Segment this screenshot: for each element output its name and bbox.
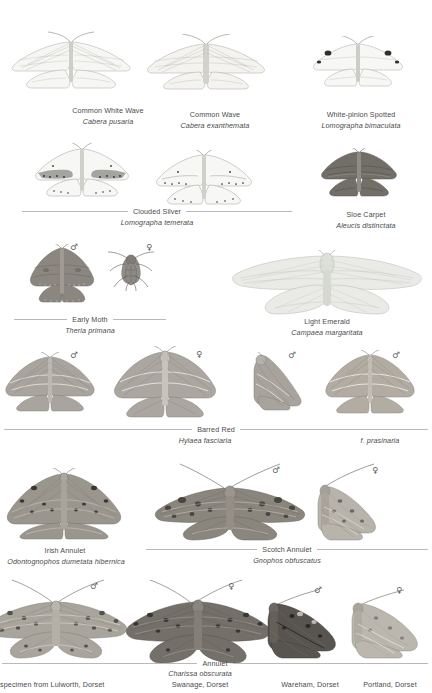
moth-illustration-scotch-annulet-female (310, 483, 382, 543)
caption-common-name-white-pinion-spotted: White-pinion Spotted (290, 110, 432, 119)
rule-line-right (317, 549, 428, 550)
moth-illustration-barred-red-male-2 (243, 352, 305, 414)
moth-illustration-common-white-wave (8, 30, 134, 92)
moth-illustration-annulet-male-1 (0, 598, 130, 660)
caption-common-name-sloe-carpet: Sloe Carpet (300, 210, 432, 219)
rule-line-left (14, 319, 67, 320)
sex-symbol-early-moth-male: ♂ (70, 243, 78, 251)
sex-symbol-early-moth-female: ♀ (146, 243, 152, 251)
moth-illustration-annulet-male-2 (262, 600, 344, 660)
caption-common-name-light-emerald: Light Emerald (238, 317, 416, 326)
moth-illustration-annulet-female-1 (122, 598, 274, 664)
moth-illustration-sloe-carpet (318, 148, 400, 200)
locality-label-lulworth: specimen from Lulworth, Dorset (0, 680, 104, 689)
sex-symbol-annulet-male-2: ♂ (314, 586, 322, 594)
caption-common-name-irish-annulet: Irish Annulet (0, 546, 130, 555)
rule-line-right (233, 663, 428, 664)
moth-illustration-common-wave (143, 34, 269, 92)
caption-scientific-name-sloe-carpet: Aleucis distinctata (300, 221, 432, 230)
moth-illustration-annulet-female-2 (346, 600, 426, 660)
rule-line-right (113, 319, 166, 320)
rule-line-right (186, 211, 292, 212)
group-title-annulet: Annulet (202, 659, 227, 668)
group-rule-scotch-annulet: Scotch Annulet (146, 545, 428, 554)
group-rule-early-moth: Early Moth (14, 315, 166, 324)
caption-scientific-name-annulet: Charissa obscurata (130, 669, 270, 678)
group-rule-barred-red: Barred Red (4, 425, 428, 434)
sex-symbol-annulet-female-1: ♀ (228, 582, 234, 590)
moth-illustration-barred-red-male-1 (2, 352, 98, 412)
rule-line-left (22, 211, 128, 212)
group-title-clouded-silver: Clouded Silver (133, 207, 181, 216)
rule-line-left (146, 549, 257, 550)
caption-scientific-name-early-moth: Theria primana (14, 326, 166, 335)
moth-plate: Common White Wave Cabera pusaria (0, 0, 432, 693)
moth-illustration-white-pinion-spotted (310, 36, 406, 90)
moth-illustration-light-emerald (228, 250, 426, 320)
caption-scientific-name-light-emerald: Campaea margaritata (238, 328, 416, 337)
rule-line-right (240, 429, 428, 430)
group-title-early-moth: Early Moth (72, 315, 107, 324)
caption-scientific-name-irish-annulet: Odontognophos dumetata hibernica (0, 557, 141, 566)
moth-illustration-scotch-annulet-male (152, 484, 308, 542)
locality-label-portland: Portland, Dorset (348, 680, 432, 689)
sex-symbol-barred-red-female: ♀ (196, 350, 202, 358)
moth-illustration-barred-red-female (110, 346, 220, 418)
sex-symbol-barred-red-male-2: ♂ (288, 351, 296, 359)
moth-illustration-irish-annulet (4, 468, 124, 540)
group-title-barred-red: Barred Red (197, 425, 235, 434)
sex-symbol-barred-red-form-male: ♂ (392, 351, 400, 359)
sex-symbol-barred-red-male-1: ♂ (70, 351, 78, 359)
moth-illustration-early-moth-female (105, 248, 157, 292)
moth-illustration-early-moth-male (26, 244, 98, 306)
group-title-scotch-annulet: Scotch Annulet (262, 545, 311, 554)
caption-scientific-name-scotch-annulet: Gnophos obfuscatus (146, 556, 428, 565)
moth-illustration-clouded-silver-right (150, 150, 258, 206)
sex-symbol-scotch-annulet-female: ♀ (372, 466, 378, 474)
sex-symbol-scotch-annulet-male: ♂ (272, 466, 280, 474)
group-rule-clouded-silver: Clouded Silver (22, 207, 292, 216)
caption-form-label-prasinaria: f. prasinaria (330, 436, 430, 445)
group-rule-annulet: Annulet (2, 659, 428, 668)
moth-illustration-barred-red-form-prasinaria (322, 350, 418, 414)
caption-scientific-name-white-pinion-spotted: Lomographa bimaculata (290, 121, 432, 130)
sex-symbol-annulet-male-1: ♂ (90, 582, 98, 590)
caption-scientific-name-barred-red: Hylaea fasciaria (125, 436, 285, 445)
rule-line-left (4, 429, 192, 430)
locality-label-wareham: Wareham, Dorset (260, 680, 360, 689)
sex-symbol-annulet-female-2: ♀ (396, 586, 402, 594)
rule-line-left (2, 663, 197, 664)
locality-label-swanage: Swanage, Dorset (130, 680, 270, 689)
caption-scientific-name-common-wave: Cabera exanthemata (140, 121, 290, 130)
caption-scientific-name-clouded-silver: Lomographa temerata (22, 218, 292, 227)
caption-common-name-common-wave: Common Wave (140, 110, 290, 119)
moth-illustration-clouded-silver-left (30, 143, 134, 199)
